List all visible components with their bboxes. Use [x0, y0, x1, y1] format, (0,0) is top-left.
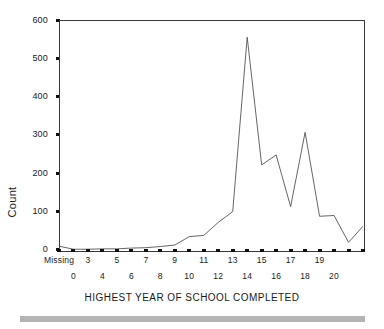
x-tick-mark-13: [260, 249, 264, 252]
x-tick-label-11: 13: [228, 256, 238, 265]
x-tick-mark-7: [173, 249, 177, 252]
footer-bar: [20, 316, 365, 322]
x-tick-mark-0: [71, 249, 75, 252]
x-tick-mark-18: [332, 249, 336, 252]
x-tick-label-8: 10: [184, 272, 194, 281]
x-tick-label-15: 17: [286, 256, 296, 265]
x-tick-label-17: 19: [315, 256, 325, 265]
x-tick-label-14: 16: [271, 272, 281, 281]
x-tick-mark-14: [274, 249, 278, 252]
x-tick-label-12: 14: [242, 272, 252, 281]
x-tick-mark-1: [86, 249, 90, 252]
x-tick-label-16: 18: [300, 272, 310, 281]
x-tick-label-1: 3: [85, 256, 90, 265]
x-tick-label-9: 11: [199, 256, 208, 265]
x-tick-label-7: 9: [172, 256, 177, 265]
x-tick-mark-4: [129, 249, 133, 252]
x-tick-mark-11: [231, 249, 235, 252]
x-tick-label-4: 6: [129, 272, 134, 281]
x-tick-mark-19: [347, 249, 351, 252]
x-tick-mark-6: [158, 249, 162, 252]
x-tick-mark-12: [245, 249, 249, 252]
x-tick-mark-17: [318, 249, 322, 252]
x-tick-mark-15: [289, 249, 293, 252]
x-tick-label-3: 5: [114, 256, 119, 265]
x-tick-mark-20: [361, 249, 365, 252]
x-tick-mark-16: [303, 249, 307, 252]
x-tick-mark-5: [144, 249, 148, 252]
x-tick-label-10: 12: [213, 272, 223, 281]
x-tick-label-Missing: Missing: [44, 256, 74, 265]
x-tick-mark-Missing: [57, 249, 61, 252]
x-tick-mark-3: [115, 249, 119, 252]
chart-figure: 600 500 400 300 200 100 0 Count Missing0…: [0, 0, 384, 329]
x-tick-mark-9: [202, 249, 206, 252]
x-axis-title: HIGHEST YEAR OF SCHOOL COMPLETED: [0, 292, 384, 303]
x-tick-label-2: 4: [100, 272, 105, 281]
x-tick-mark-10: [216, 249, 220, 252]
x-tick-label-6: 8: [158, 272, 163, 281]
x-tick-mark-2: [100, 249, 104, 252]
x-tick-mark-8: [187, 249, 191, 252]
x-tick-label-13: 15: [257, 256, 267, 265]
x-tick-label-18: 20: [329, 272, 339, 281]
x-axis: Missing034567891011121314151617181920: [0, 0, 384, 329]
x-tick-label-5: 7: [143, 256, 148, 265]
x-tick-label-0: 0: [71, 272, 76, 281]
